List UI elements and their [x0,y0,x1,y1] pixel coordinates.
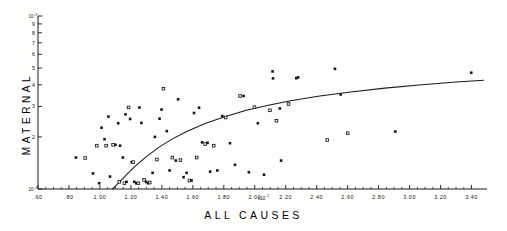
x-tick-label: 1.80 [217,194,230,200]
x-tick-label: 2.20 [279,194,292,200]
scatter-point [224,116,227,119]
scatter-point [138,106,141,109]
y-tick-label: 6 [32,51,35,57]
scatter-point [119,144,122,147]
y-tick-label: 7 [32,40,35,46]
scatter-point [84,157,87,160]
y-axis-title: MATERNAL [21,73,32,156]
scatter-point [257,122,260,125]
scatter-point [100,126,103,129]
x-axis-multiplier-base: x10 [258,196,266,201]
scatter-point [105,144,108,147]
scatter-point [269,109,272,112]
scatter-point [242,95,245,98]
x-tick-label: 1.40 [156,194,169,200]
scatter-point [140,122,143,125]
scatter-point [179,159,182,162]
y-axis-bottom-decade-label-base: 10 [28,187,34,192]
scatter-point [195,156,198,159]
scatter-point [297,76,300,79]
scatter-point [137,182,140,185]
scatter-point [275,119,278,122]
scatter-point [92,172,95,175]
y-tick-label: 8 [32,30,35,36]
scatter-point [182,176,185,179]
scatter-point [198,106,201,109]
scatter-point [171,156,174,159]
scatter-point [212,144,215,147]
y-axis-top-decade-label: 10-3 [28,13,37,20]
scatter-point [118,181,121,184]
scatter-point [107,115,110,118]
scatter-point [154,136,157,139]
scatter-point [109,175,112,178]
scatter-point [339,93,342,96]
scatter-point [234,164,237,167]
fitted-regression-curve [112,80,484,189]
scatter-point [114,144,117,147]
scatter-point [129,118,132,121]
scatter-point [394,130,397,133]
x-tick-label: 3.40 [465,194,478,200]
scatter-point [271,70,274,73]
scatter-point [253,106,256,109]
scatter-point [229,142,232,145]
x-tick-label: 3.00 [403,194,416,200]
scatter-point [177,98,180,101]
x-tick-label: .80 [64,194,73,200]
scatter-point [201,141,204,144]
x-tick-label: 2.40 [310,194,323,200]
scatter-point [326,139,329,142]
scatter-point [206,141,209,144]
scatter-point [166,130,169,133]
scatter-point [125,181,128,184]
scatter-point [272,77,275,80]
scatter-point [346,132,349,135]
scatter-point [162,87,165,90]
x-axis-title-wrapper: ALL CAUSES [0,205,507,223]
x-tick-label: 2.60 [341,194,354,200]
scatter-point [280,159,283,162]
scatter-point [124,113,127,116]
scatter-point [248,171,251,174]
scatter-point [190,179,193,182]
scatter-point [117,122,120,125]
scatter-plot-figure: .60.801.001.201.401.601.802.002.202.402.… [0,0,507,231]
y-axis-top-decade-label-base: 10 [28,14,34,19]
scatter-point [127,106,130,109]
scatter-point [168,169,171,172]
scatter-point [151,172,154,175]
scatter-point [158,117,161,120]
y-tick-label: 9 [32,21,35,27]
scatter-point [156,158,159,161]
y-axis-bottom-decade-label: 10-4 [28,186,37,193]
scatter-point [185,172,188,175]
scatter-point [204,143,207,146]
scatter-point [216,169,219,172]
scatter-point [112,144,115,147]
scatter-point [98,182,101,185]
scatter-point [175,159,178,162]
x-tick-label: 1.00 [94,194,107,200]
plot-canvas: .60.801.001.201.401.601.802.002.202.402.… [0,0,507,231]
scatter-point [160,108,163,111]
x-tick-label: .60 [33,194,42,200]
scatter-point [193,112,196,115]
scatter-point [334,68,337,71]
x-axis-title: ALL CAUSES [204,209,302,221]
scatter-point [103,138,106,141]
scatter-point [148,181,151,184]
x-tick-label: 2.80 [372,194,385,200]
y-axis-top-decade-label-exponent: -3 [34,13,37,17]
x-axis-multiplier-exponent: -2 [266,194,269,198]
scatter-point [287,103,290,106]
y-axis-bottom-decade-label-exponent: -4 [34,186,37,190]
scatter-point [263,173,266,176]
scatter-point [209,170,212,173]
scatter-point [239,95,242,98]
x-tick-label: 1.20 [125,194,138,200]
scatter-point [132,161,135,164]
scatter-point [221,115,224,118]
scatter-point [75,156,78,159]
y-axis-title-wrapper: MATERNAL [16,59,34,169]
